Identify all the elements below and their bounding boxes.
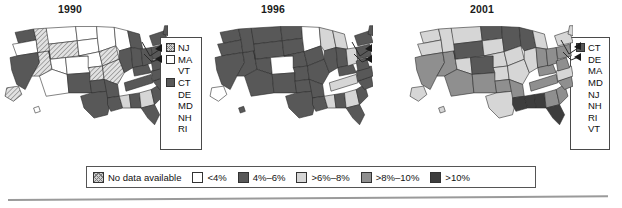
state-CO: [271, 56, 295, 74]
state-AL: [334, 93, 346, 108]
swatch-none-icon: [166, 101, 175, 110]
legend-label: 4%–6%: [253, 172, 286, 183]
us-map-svg-1990: [0, 14, 168, 139]
callout-item: RI: [166, 123, 197, 135]
state-TN: [329, 74, 358, 91]
legend-item-gt10: >10%: [430, 172, 470, 183]
state-ME: [368, 26, 373, 36]
state-FL: [546, 105, 564, 125]
state-AK: [410, 86, 427, 101]
legend-label: <4%: [207, 172, 226, 183]
state-FL: [346, 105, 364, 125]
state-CO: [66, 56, 90, 74]
callout-item: MD: [166, 100, 197, 112]
state-AK: [210, 86, 227, 101]
state-KS: [293, 66, 309, 81]
state-CO: [471, 56, 495, 74]
state-KS: [88, 66, 104, 81]
callout-pointer-1990: [138, 40, 164, 74]
state-FL: [141, 105, 159, 125]
state-AK: [5, 86, 22, 101]
legend-item-no-data: No data available: [93, 172, 181, 183]
legend-label: >10%: [445, 172, 470, 183]
state-TN: [529, 74, 558, 91]
callout-item: NH: [166, 112, 197, 124]
swatch-none-icon: [166, 124, 175, 133]
us-map-1996: [205, 14, 405, 149]
legend-item-8to10: >8%–10%: [361, 172, 420, 183]
callout-label: MD: [178, 100, 193, 111]
callout-pointer-2001: [557, 38, 583, 72]
callout-item: DE: [166, 88, 197, 100]
legend-label: No data available: [108, 172, 181, 183]
callout-label: NJ: [178, 42, 190, 53]
swatch-4to6-icon: [166, 78, 175, 87]
swatch-none-icon: [166, 90, 175, 99]
legend-label: >8%–10%: [376, 172, 420, 183]
legend-swatch-8to10-icon: [361, 172, 372, 183]
legend-swatch-no-data-icon: [93, 172, 104, 183]
legend-swatch-4to6-icon: [238, 172, 249, 183]
state-WY: [454, 41, 484, 59]
us-map-svg-2001: [405, 14, 573, 139]
bottom-divider: [8, 195, 608, 201]
callout-label: DE: [178, 89, 191, 100]
callout-item: CT: [166, 77, 197, 89]
state-TX: [81, 91, 111, 118]
state-AL: [534, 93, 546, 108]
legend-item-6to8: >6%–8%: [296, 172, 349, 183]
legend-item-4to6: 4%–6%: [238, 172, 286, 183]
callout-label: MA: [178, 54, 192, 65]
map-panel-2001: 2001: [405, 0, 622, 160]
legend-swatch-gt10-icon: [430, 172, 441, 183]
state-WY: [254, 41, 284, 59]
callout-item: NJ: [166, 42, 197, 54]
map-panel-1990: 1990: [0, 0, 205, 160]
swatch-lt4-icon: [166, 55, 175, 64]
swatch-none-icon: [166, 66, 175, 75]
callout-label: VT: [178, 65, 190, 76]
state-HI: [439, 106, 446, 113]
callout-item: VT: [166, 65, 197, 77]
swatch-no-data-icon: [166, 43, 175, 52]
state-NM: [472, 73, 496, 93]
state-NM: [272, 73, 296, 93]
state-WY: [49, 41, 79, 59]
state-NM: [67, 73, 91, 93]
us-map-svg-1996: [205, 14, 373, 139]
callout-box-1990: NJ MA VT CT DE MD NH RI: [160, 37, 202, 150]
callout-label: CT: [178, 77, 191, 88]
state-ME: [568, 26, 573, 36]
map-legend: No data available <4% 4%–6% >6%–8% >8%–1…: [86, 166, 536, 188]
state-TX: [286, 91, 316, 118]
state-TX: [486, 91, 516, 118]
map-panel-1996: 1996: [205, 0, 405, 160]
state-HI: [34, 106, 41, 113]
legend-swatch-lt4-icon: [192, 172, 203, 183]
legend-swatch-6to8-icon: [296, 172, 307, 183]
callout-pointer-1996: [348, 40, 374, 74]
legend-item-lt4: <4%: [192, 172, 226, 183]
state-ME: [163, 26, 168, 36]
swatch-none-icon: [166, 113, 175, 122]
state-HI: [239, 106, 246, 113]
state-TN: [124, 74, 153, 91]
callout-label: NH: [178, 112, 192, 123]
us-map-2001: [405, 14, 622, 149]
state-KS: [493, 66, 509, 81]
callout-item: MA: [166, 54, 197, 66]
callout-label: RI: [178, 123, 188, 134]
legend-label: >6%–8%: [311, 172, 349, 183]
state-AL: [129, 93, 141, 108]
